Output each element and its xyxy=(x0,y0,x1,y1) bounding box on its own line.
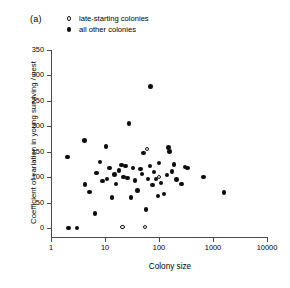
data-point xyxy=(114,182,119,187)
x-tick xyxy=(267,238,268,242)
x-tick xyxy=(51,238,52,242)
data-point xyxy=(162,192,167,197)
legend-item-all-other: all other colonies xyxy=(67,24,149,35)
data-point xyxy=(104,144,109,149)
data-point xyxy=(144,207,149,212)
x-tick xyxy=(105,238,106,242)
data-point xyxy=(138,167,143,172)
x-axis-label-wrap: Colony size xyxy=(0,262,290,271)
figure-panel: (a) late-starting colonies all other col… xyxy=(0,0,290,288)
data-point xyxy=(125,176,130,181)
data-point xyxy=(157,175,162,180)
data-point xyxy=(75,226,80,231)
panel-label: (a) xyxy=(30,14,42,24)
plot-area xyxy=(51,50,267,237)
legend-label: all other colonies xyxy=(79,24,136,35)
data-point xyxy=(129,195,134,200)
data-point xyxy=(123,164,128,169)
open-circle-icon xyxy=(67,16,76,20)
data-point xyxy=(112,172,117,177)
data-point xyxy=(98,160,103,165)
y-tick-label: 50 xyxy=(18,198,44,207)
y-tick-label: 300 xyxy=(18,70,44,79)
data-point xyxy=(222,190,227,195)
x-tick-label: 1 xyxy=(31,243,71,252)
x-tick-label: 1000 xyxy=(193,243,233,252)
data-point xyxy=(93,211,98,216)
x-tick xyxy=(213,238,214,242)
data-point xyxy=(146,177,151,182)
data-point xyxy=(100,179,105,184)
data-point xyxy=(110,195,115,200)
x-tick-label: 10 xyxy=(85,243,125,252)
data-point xyxy=(120,225,125,230)
data-point xyxy=(143,225,148,230)
data-point xyxy=(94,171,99,176)
data-point xyxy=(135,188,140,193)
y-tick-label: 0 xyxy=(18,223,44,232)
data-point xyxy=(65,155,70,160)
legend: late-starting colonies all other colonie… xyxy=(67,13,149,35)
y-tick-label: 200 xyxy=(18,121,44,130)
data-point xyxy=(141,151,146,156)
data-point xyxy=(107,166,112,171)
data-point xyxy=(174,177,179,182)
x-tick-label: 10000 xyxy=(247,243,287,252)
y-tick-label: 250 xyxy=(18,96,44,105)
y-tick-label: 350 xyxy=(18,45,44,54)
data-point xyxy=(201,175,206,180)
data-point xyxy=(105,177,110,182)
data-point xyxy=(140,172,145,177)
legend-label: late-starting colonies xyxy=(79,13,149,24)
x-tick-label: 100 xyxy=(139,243,179,252)
data-point xyxy=(145,147,150,152)
data-point xyxy=(82,138,87,143)
filled-circle-icon xyxy=(67,27,76,31)
data-point xyxy=(148,84,153,89)
x-axis-label: Colony size xyxy=(99,262,191,271)
data-point xyxy=(165,173,170,178)
data-point xyxy=(131,166,136,171)
data-point xyxy=(170,169,175,174)
data-point xyxy=(179,182,184,187)
data-point xyxy=(127,121,132,126)
y-tick-label: 100 xyxy=(18,172,44,181)
data-point xyxy=(167,149,172,154)
x-tick xyxy=(159,238,160,242)
data-point xyxy=(156,194,161,199)
legend-item-late-starting: late-starting colonies xyxy=(67,13,149,24)
data-point xyxy=(87,190,92,195)
data-point xyxy=(150,183,155,188)
data-point xyxy=(133,178,138,183)
data-point xyxy=(172,162,177,167)
data-point xyxy=(157,161,162,166)
y-tick-label: 150 xyxy=(18,147,44,156)
data-point xyxy=(159,181,164,186)
data-point xyxy=(83,182,88,187)
data-point xyxy=(185,166,190,171)
data-point xyxy=(152,170,157,175)
data-point xyxy=(66,226,71,231)
data-point xyxy=(117,168,122,173)
data-point xyxy=(148,164,153,169)
